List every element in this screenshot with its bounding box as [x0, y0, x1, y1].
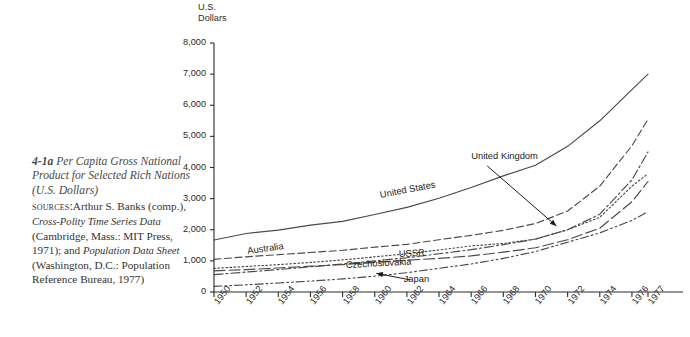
series-line-czechoslovakia — [214, 182, 648, 271]
y-tick-label-7000: 7,000 — [160, 68, 206, 78]
y-tick-label-0: 0 — [160, 286, 206, 296]
y-tick-label-5000: 5,000 — [160, 130, 206, 140]
y-tick-label-6000: 6,000 — [160, 99, 206, 109]
chart-svg — [0, 0, 690, 337]
y-tick-label-3000: 3,000 — [160, 193, 206, 203]
chart-area: U.S. Dollars 01,0002,0003,0004,0005,0006… — [0, 0, 690, 337]
united-kingdom-leader-arrow-icon — [487, 166, 556, 226]
y-tick-label-8000: 8,000 — [160, 37, 206, 47]
y-tick-label-4000: 4,000 — [160, 162, 206, 172]
y-tick-label-2000: 2,000 — [160, 224, 206, 234]
series-label-united-kingdom: United Kingdom — [471, 150, 538, 161]
series-line-united-states — [214, 74, 648, 240]
chart-axes — [210, 43, 683, 297]
series-line-ussr — [214, 152, 648, 275]
series-label-japan: Japan — [404, 273, 430, 284]
y-tick-label-1000: 1,000 — [160, 255, 206, 265]
figure-container: 4-1a Per Capita Gross National Product f… — [0, 0, 690, 337]
y-axis-title: U.S. Dollars — [198, 2, 227, 24]
